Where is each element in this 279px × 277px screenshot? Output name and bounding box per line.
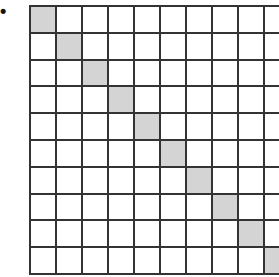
grid-cell — [187, 221, 213, 248]
grid-cell — [239, 87, 265, 114]
grid-cell — [57, 221, 83, 248]
grid-cell — [135, 141, 161, 168]
shaded-cell — [265, 248, 279, 275]
grid-cell — [161, 168, 187, 195]
shaded-cell — [109, 87, 135, 114]
grid-cell — [213, 34, 239, 61]
grid-cell — [187, 61, 213, 88]
grid-cell — [135, 221, 161, 248]
shaded-cell — [135, 114, 161, 141]
grid-cell — [161, 34, 187, 61]
grid-cell — [187, 34, 213, 61]
grid-cell — [109, 248, 135, 275]
grid-cell — [83, 248, 109, 275]
grid-cell — [187, 248, 213, 275]
grid-cell — [83, 34, 109, 61]
grid-cell — [83, 141, 109, 168]
grid-cell — [213, 141, 239, 168]
grid-cell — [187, 141, 213, 168]
grid-cell — [239, 114, 265, 141]
grid-cell — [213, 7, 239, 34]
grid-cell — [83, 114, 109, 141]
grid-cell — [135, 7, 161, 34]
grid-cell — [31, 34, 57, 61]
grid-cell — [265, 7, 279, 34]
grid-cell — [31, 168, 57, 195]
grid-cell — [265, 221, 279, 248]
shaded-cell — [213, 195, 239, 222]
grid-cell — [265, 195, 279, 222]
grid-cell — [109, 114, 135, 141]
figure-label: • — [0, 2, 6, 20]
grid-cell — [213, 87, 239, 114]
grid-cell — [31, 195, 57, 222]
grid-cell — [265, 87, 279, 114]
grid-cell — [187, 87, 213, 114]
shaded-cell — [187, 168, 213, 195]
grid-cell — [83, 87, 109, 114]
grid-cell — [187, 114, 213, 141]
grid-cell — [265, 34, 279, 61]
shaded-cell — [161, 141, 187, 168]
diagonal-grid — [29, 5, 279, 275]
grid-cell — [109, 168, 135, 195]
grid-cell — [161, 87, 187, 114]
grid-cell — [265, 61, 279, 88]
grid-cell — [213, 221, 239, 248]
grid-cell — [31, 221, 57, 248]
grid-cell — [187, 195, 213, 222]
grid-cell — [31, 87, 57, 114]
shaded-cell — [57, 34, 83, 61]
grid-cell — [239, 7, 265, 34]
grid-cell — [187, 7, 213, 34]
grid-cell — [83, 168, 109, 195]
grid-cell — [31, 248, 57, 275]
grid-cell — [57, 61, 83, 88]
grid-cell — [239, 168, 265, 195]
grid-cell — [57, 141, 83, 168]
grid-cell — [213, 61, 239, 88]
grid-cell — [31, 61, 57, 88]
grid-cell — [161, 7, 187, 34]
grid-cell — [239, 195, 265, 222]
grid-cell — [239, 61, 265, 88]
grid-cell — [109, 141, 135, 168]
grid-cell — [161, 195, 187, 222]
grid-cell — [161, 248, 187, 275]
grid-cell — [161, 114, 187, 141]
grid-cell — [135, 34, 161, 61]
grid-cell — [161, 61, 187, 88]
shaded-cell — [83, 61, 109, 88]
grid-cell — [109, 61, 135, 88]
grid-cell — [213, 248, 239, 275]
grid-cell — [31, 114, 57, 141]
grid-cell — [239, 34, 265, 61]
grid-cell — [109, 34, 135, 61]
grid-cell — [213, 168, 239, 195]
grid-cell — [161, 221, 187, 248]
grid-cell — [57, 114, 83, 141]
grid-cell — [135, 61, 161, 88]
grid-cell — [109, 221, 135, 248]
grid-cell — [213, 114, 239, 141]
grid-cell — [83, 195, 109, 222]
grid-cell — [135, 168, 161, 195]
shaded-cell — [31, 7, 57, 34]
grid-cell — [265, 168, 279, 195]
shaded-cell — [239, 221, 265, 248]
grid-cell — [57, 7, 83, 34]
grid-cell — [109, 7, 135, 34]
grid-cell — [265, 114, 279, 141]
grid-cell — [109, 195, 135, 222]
grid-cell — [83, 221, 109, 248]
grid-cell — [135, 248, 161, 275]
grid-cell — [57, 168, 83, 195]
grid-cell — [135, 87, 161, 114]
grid-cell — [135, 195, 161, 222]
grid-cell — [57, 87, 83, 114]
grid-cell — [57, 248, 83, 275]
grid-cell — [239, 141, 265, 168]
grid-cell — [83, 7, 109, 34]
grid-cell — [265, 141, 279, 168]
grid-cell — [31, 141, 57, 168]
